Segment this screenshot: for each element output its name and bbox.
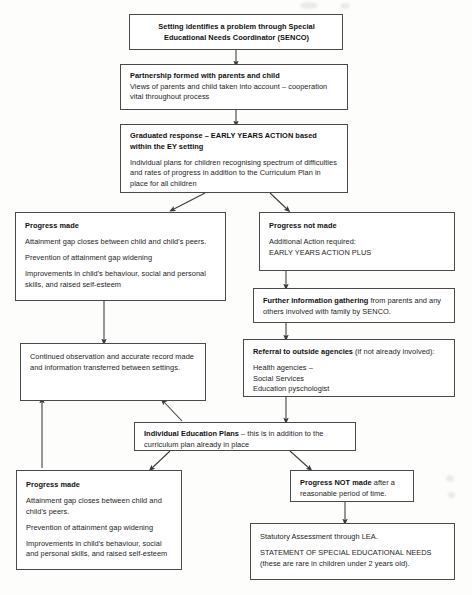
node-continued-observation[interactable]: Continued observation and accurate recor… [20, 343, 206, 401]
node-statutory-line: Statutory Assessment through LEA. [260, 532, 446, 543]
node-iep[interactable]: Individual Education Plans – this is in … [134, 422, 356, 451]
edge-iep-to-progress-made-2 [151, 451, 170, 469]
edge-graduated-to-progress-made [172, 193, 205, 210]
scan-artifact [446, 475, 454, 482]
node-progress-made-2[interactable]: Progress made Attainment gap closes betw… [16, 470, 182, 570]
node-partnership-heading: Partnership formed with parents and chil… [130, 71, 339, 82]
edge-iep-to-observation [163, 401, 182, 421]
node-progress-not-made-line2: EARLY YEARS ACTION PLUS [269, 248, 446, 259]
node-senco-line1: Setting identifies a problem through Spe… [139, 22, 334, 33]
node-iep-heading: Individual Education Plans [144, 429, 239, 438]
node-progress-made-1-line3: Improvements in child's behaviour, socia… [25, 269, 217, 290]
node-progress-not-made[interactable]: Progress not made Additional Action requ… [259, 212, 455, 271]
node-senco-line2: Educational Needs Coordinator (SENCO) [139, 33, 334, 44]
node-progress-not-made-heading: Progress not made [269, 221, 446, 232]
node-progress-not-made-line1: Additional Action required: [269, 237, 446, 248]
node-graduated-heading: Graduated response – EARLY YEARS ACTION … [130, 131, 339, 152]
node-further-information[interactable]: Further information gathering from paren… [253, 288, 455, 323]
node-partnership-body: Views of parents and child taken into ac… [130, 82, 339, 103]
node-progress-made-1-heading: Progress made [25, 221, 217, 232]
node-progress-not-made-2-text: Progress NOT made after a reasonable per… [300, 478, 405, 499]
node-further-information-heading: Further information gathering [263, 296, 368, 305]
edge-iep-to-progress-not-made-2 [290, 451, 310, 469]
node-further-information-text: Further information gathering from paren… [263, 296, 446, 317]
node-graduated-response[interactable]: Graduated response – EARLY YEARS ACTION … [120, 124, 348, 193]
node-progress-made-1-line2: Prevention of attainment gap widening [25, 253, 217, 264]
node-partnership[interactable]: Partnership formed with parents and chil… [120, 64, 348, 110]
node-statement-line: STATEMENT OF SPECIAL EDUCATIONAL NEEDS [260, 548, 446, 559]
node-progress-not-made-2[interactable]: Progress NOT made after a reasonable per… [290, 470, 414, 502]
node-iep-text: Individual Education Plans – this is in … [144, 429, 347, 450]
node-progress-made-2-line3: Improvements in child's behaviour, socia… [26, 539, 173, 560]
node-statement-note: (these are rare in children under 2 year… [260, 559, 446, 570]
node-progress-made-1-line1: Attainment gap closes between child and … [25, 237, 217, 248]
node-progress-made-2-heading: Progress made [26, 480, 173, 491]
node-referral-item-2: Social Services [253, 374, 446, 385]
node-referral-item-1: Health agencies – [253, 363, 446, 374]
node-progress-made-1[interactable]: Progress made Attainment gap closes betw… [15, 212, 226, 301]
node-progress-made-2-line2: Prevention of attainment gap widening [26, 523, 173, 534]
node-progress-not-made-2-heading: Progress NOT made [300, 478, 372, 487]
flowchart-page: Setting identifies a problem through Spe… [0, 0, 472, 595]
node-graduated-body: Individual plans for children recognisin… [130, 158, 339, 190]
node-continued-observation-text: Continued observation and accurate recor… [30, 352, 197, 373]
scan-artifact [300, 2, 318, 9]
node-referral-suffix: (if not already involved): [353, 347, 435, 356]
node-referral-heading-line: Referral to outside agencies (if not alr… [253, 347, 446, 358]
node-referral-item-3: Education pyschologist [253, 384, 446, 395]
node-statutory-assessment[interactable]: Statutory Assessment through LEA. STATEM… [250, 523, 455, 580]
node-progress-made-2-line1: Attainment gap closes between child and … [26, 496, 173, 517]
edge-graduated-to-progress-not-made [270, 193, 288, 210]
node-referral-heading: Referral to outside agencies [253, 347, 353, 356]
node-senco[interactable]: Setting identifies a problem through Spe… [129, 14, 343, 50]
node-referral[interactable]: Referral to outside agencies (if not alr… [243, 339, 455, 397]
scan-artifact [340, 3, 350, 9]
scan-artifact [448, 492, 455, 498]
